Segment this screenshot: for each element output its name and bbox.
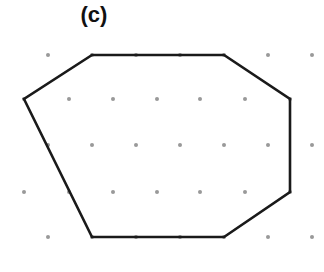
grid-dot xyxy=(310,235,314,239)
isometric-dot-grid-figure: (c) xyxy=(0,0,324,272)
grid-dot xyxy=(266,143,270,147)
grid-dot xyxy=(198,97,202,101)
grid-dot xyxy=(243,190,247,194)
grid-dot xyxy=(46,235,50,239)
grid-dot xyxy=(198,190,202,194)
grid-dot xyxy=(222,143,226,147)
grid-dot xyxy=(111,97,115,101)
grid-dot xyxy=(155,97,159,101)
grid-dots xyxy=(22,53,314,239)
grid-dot xyxy=(155,190,159,194)
grid-dot xyxy=(134,143,138,147)
grid-dot xyxy=(111,190,115,194)
grid-dot xyxy=(243,97,247,101)
grid-dot xyxy=(178,143,182,147)
heptagon-shape xyxy=(24,55,290,237)
grid-dot xyxy=(46,53,50,57)
grid-dot xyxy=(90,143,94,147)
grid-dot xyxy=(22,190,26,194)
grid-dot xyxy=(67,97,71,101)
grid-dot xyxy=(266,235,270,239)
grid-dot xyxy=(310,53,314,57)
dot-grid-canvas xyxy=(0,0,324,272)
grid-dot xyxy=(310,143,314,147)
grid-dot xyxy=(266,53,270,57)
